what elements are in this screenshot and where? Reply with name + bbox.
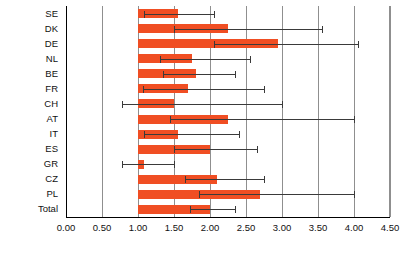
error-cap-high (354, 191, 355, 198)
y-axis-label-at: AT (47, 114, 62, 124)
x-axis-tick-3.00: 3.00 (273, 222, 292, 233)
error-cap-low (170, 116, 171, 123)
error-bar (174, 29, 322, 30)
gridline (102, 6, 103, 217)
error-cap-low (174, 26, 175, 33)
error-cap-high (250, 56, 251, 63)
error-bar (185, 179, 264, 180)
y-axis-label-dk: DK (45, 24, 62, 34)
error-cap-low (144, 11, 145, 18)
error-bar (144, 134, 239, 135)
error-cap-low (163, 71, 164, 78)
x-axis-tick-0.00: 0.00 (57, 222, 76, 233)
error-cap-high (354, 116, 355, 123)
error-cap-low (160, 56, 161, 63)
error-cap-high (235, 71, 236, 78)
error-cap-low (122, 161, 123, 168)
gridline (282, 6, 283, 217)
error-bar (122, 104, 282, 105)
x-axis-tick-1.00: 1.00 (129, 222, 148, 233)
error-bar (144, 14, 214, 15)
y-axis-label-fr: FR (45, 84, 62, 94)
x-axis-tick-1.50: 1.50 (165, 222, 184, 233)
chart-container: SEDKDENLBEFRCHATITESGRCZPLTotal 0.000.50… (0, 0, 400, 253)
plot-area (66, 6, 390, 217)
gridline (390, 6, 391, 217)
y-axis-label-ch: CH (44, 99, 62, 109)
error-cap-high (282, 101, 283, 108)
error-cap-low (190, 206, 191, 213)
error-bar (214, 44, 358, 45)
y-axis-label-pl: PL (46, 189, 62, 199)
error-cap-low (214, 41, 215, 48)
error-bar (143, 89, 264, 90)
gridline (210, 6, 211, 217)
error-cap-low (122, 101, 123, 108)
error-bar (170, 119, 354, 120)
error-bar (122, 164, 174, 165)
error-cap-low (144, 131, 145, 138)
y-axis-category-labels: SEDKDENLBEFRCHATITESGRCZPLTotal (0, 6, 62, 217)
gridline (138, 6, 139, 217)
error-bar (174, 149, 257, 150)
x-axis-tick-0.50: 0.50 (93, 222, 112, 233)
y-axis-label-total: Total (38, 204, 62, 214)
error-bar (190, 209, 235, 210)
error-cap-low (174, 146, 175, 153)
y-axis-label-se: SE (45, 9, 62, 19)
error-cap-high (235, 206, 236, 213)
error-cap-low (199, 191, 200, 198)
x-axis-line (66, 217, 390, 218)
y-axis-label-nl: NL (46, 54, 62, 64)
gridline (354, 6, 355, 217)
y-axis-label-de: DE (45, 39, 62, 49)
y-axis-label-it: IT (50, 129, 62, 139)
error-cap-high (264, 176, 265, 183)
error-cap-low (143, 86, 144, 93)
x-axis-tick-4.50: 4.50 (381, 222, 400, 233)
gridline (174, 6, 175, 217)
error-cap-high (358, 41, 359, 48)
y-axis-label-gr: GR (44, 159, 62, 169)
error-cap-high (174, 161, 175, 168)
error-bar (160, 59, 250, 60)
error-bar (163, 74, 235, 75)
y-axis-label-es: ES (45, 144, 62, 154)
error-cap-high (214, 11, 215, 18)
x-axis-tick-2.00: 2.00 (201, 222, 220, 233)
x-axis-tick-3.50: 3.50 (309, 222, 328, 233)
error-cap-high (257, 146, 258, 153)
x-axis-tick-4.00: 4.00 (345, 222, 364, 233)
error-cap-high (264, 86, 265, 93)
gridline (246, 6, 247, 217)
y-axis-label-be: BE (45, 69, 62, 79)
x-axis-tick-2.50: 2.50 (237, 222, 256, 233)
error-cap-high (239, 131, 240, 138)
y-axis-label-cz: CZ (45, 174, 62, 184)
error-cap-low (185, 176, 186, 183)
error-bar (199, 194, 354, 195)
error-cap-high (322, 26, 323, 33)
gridline (318, 6, 319, 217)
